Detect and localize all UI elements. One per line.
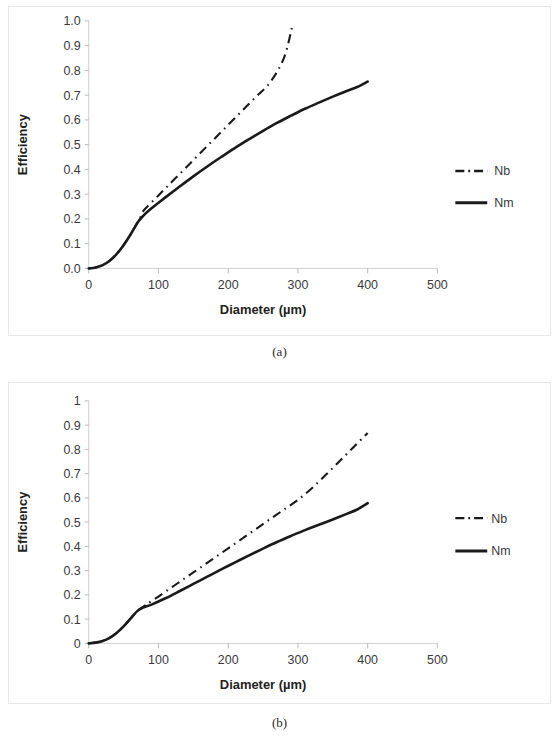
y-tick-label: 0.7 bbox=[63, 467, 80, 481]
y-tick-label: 1 bbox=[74, 394, 81, 408]
legend-label-nm: Nm bbox=[494, 196, 513, 210]
y-axis-title: Efficiency bbox=[15, 113, 30, 175]
x-axis-title: Diameter (µm) bbox=[220, 677, 307, 692]
y-tick-label: 0.8 bbox=[63, 64, 80, 78]
y-tick-label: 0.7 bbox=[63, 89, 80, 103]
y-axis-title: Efficiency bbox=[15, 491, 30, 553]
x-tick-label: 200 bbox=[218, 278, 239, 292]
caption-a: (a) bbox=[0, 344, 559, 360]
series-line-nb bbox=[89, 433, 368, 643]
y-tick-label: 0.4 bbox=[63, 540, 80, 554]
y-tick-label: 0.9 bbox=[63, 419, 80, 433]
chart-a-plot: 0.00.10.20.30.40.50.60.70.80.91.00100200… bbox=[9, 7, 550, 335]
y-tick-label: 0.1 bbox=[63, 237, 80, 251]
series-line-nm bbox=[89, 82, 368, 269]
y-tick-label: 0.2 bbox=[63, 212, 80, 226]
y-tick-label: 0.9 bbox=[63, 39, 80, 53]
chart-panel-a: 0.00.10.20.30.40.50.60.70.80.91.00100200… bbox=[8, 6, 551, 336]
y-tick-label: 0 bbox=[74, 637, 81, 651]
y-tick-label: 0.8 bbox=[63, 443, 80, 457]
legend-label-nb: Nb bbox=[494, 164, 510, 178]
chart-panel-b: 00.10.20.30.40.50.60.70.80.9101002003004… bbox=[8, 382, 551, 704]
series-line-nb bbox=[89, 26, 293, 269]
legend-label-nm: Nm bbox=[491, 544, 510, 558]
x-tick-label: 200 bbox=[218, 653, 239, 667]
x-tick-label: 300 bbox=[288, 278, 309, 292]
caption-b: (b) bbox=[0, 715, 559, 731]
series-line-nm bbox=[89, 503, 368, 643]
x-tick-label: 0 bbox=[85, 653, 92, 667]
y-tick-label: 0.2 bbox=[63, 588, 80, 602]
y-tick-label: 0.3 bbox=[63, 564, 80, 578]
chart-b-plot: 00.10.20.30.40.50.60.70.80.9101002003004… bbox=[9, 383, 550, 703]
y-tick-label: 0.0 bbox=[63, 262, 80, 276]
x-tick-label: 0 bbox=[85, 278, 92, 292]
y-tick-label: 0.5 bbox=[63, 138, 80, 152]
y-tick-label: 0.1 bbox=[63, 613, 80, 627]
y-tick-label: 0.6 bbox=[63, 113, 80, 127]
x-axis-title: Diameter (µm) bbox=[220, 302, 307, 317]
x-tick-label: 500 bbox=[427, 653, 448, 667]
legend-label-nb: Nb bbox=[491, 512, 507, 526]
x-tick-label: 400 bbox=[357, 278, 378, 292]
y-tick-label: 1.0 bbox=[63, 14, 80, 28]
figure-container: 0.00.10.20.30.40.50.60.70.80.91.00100200… bbox=[0, 0, 559, 741]
x-tick-label: 100 bbox=[148, 278, 169, 292]
x-tick-label: 500 bbox=[427, 278, 448, 292]
y-tick-label: 0.3 bbox=[63, 188, 80, 202]
y-tick-label: 0.5 bbox=[63, 516, 80, 530]
x-tick-label: 400 bbox=[357, 653, 378, 667]
y-tick-label: 0.6 bbox=[63, 491, 80, 505]
y-tick-label: 0.4 bbox=[63, 163, 80, 177]
x-tick-label: 300 bbox=[288, 653, 309, 667]
x-tick-label: 100 bbox=[148, 653, 169, 667]
